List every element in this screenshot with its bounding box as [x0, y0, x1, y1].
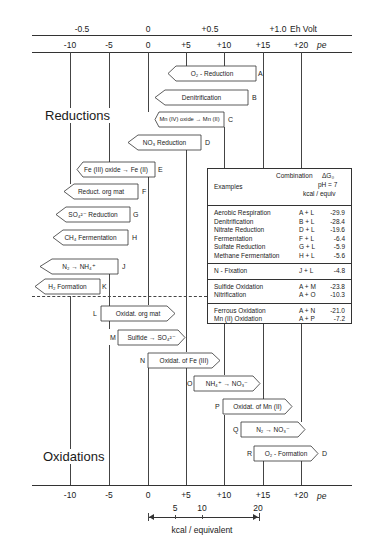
- reduction-box-j: N₂ → NH₄⁺: [40, 259, 118, 274]
- oxidation-letter-r: R: [247, 446, 252, 461]
- table-row: Sulfide OxidationA + M-23.8: [214, 283, 345, 292]
- table-row: DenitrificationB + L-28.4: [214, 218, 345, 227]
- reduction-box-b: Denitrification: [155, 90, 248, 105]
- oxidation-letter-o: O: [187, 376, 192, 391]
- oxidation-box-o: NH₄⁺ → NO₃⁻: [194, 376, 260, 391]
- connector-line: [301, 322, 302, 422]
- table-group-sulfide-nitrification: Sulfide OxidationA + M-23.8 Nitrificatio…: [208, 280, 351, 304]
- connector-line: [224, 52, 225, 66]
- reduction-letter-g: G: [133, 207, 138, 222]
- oxidation-letter-q: Q: [233, 422, 238, 437]
- connector-line: [224, 415, 225, 485]
- table-group-metal-oxidation: Ferrous OxidationA + N-21.0 Mn (II) Oxid…: [208, 304, 351, 327]
- connector-line: [301, 461, 302, 485]
- table-row: Ferrous OxidationA + N-21.0: [214, 307, 345, 316]
- oxidation-box-q: N₂ → NO₃⁻: [241, 422, 305, 437]
- reduction-box-g: SO₄²⁻ Reduction: [56, 207, 130, 222]
- combinations-table: Examples Combination ΔG₀ pH = 7 kcal / e…: [207, 168, 352, 324]
- pe-unit-label: pe: [317, 40, 326, 50]
- eh-tick: 0: [146, 24, 151, 34]
- connector-line: [263, 322, 264, 399]
- oxidation-box-p: Oxidat. of Mn (II): [223, 399, 292, 414]
- oxidation-box-l: Oxidat. org mat: [101, 306, 175, 321]
- reduction-box-d: NO₃ Reduction: [128, 135, 201, 150]
- table-row: FermentationF + L-6.4: [214, 235, 345, 244]
- reduction-letter-j: J: [122, 259, 126, 274]
- table-row: N - FixationJ + L-4.8: [214, 267, 345, 276]
- connector-line: [148, 368, 149, 485]
- pe-tick: -5: [105, 490, 113, 500]
- oxidation-box-r: O₂ - Formation: [254, 446, 318, 461]
- reduction-box-k: H₂ Formation: [35, 279, 100, 294]
- connector-line: [224, 322, 225, 375]
- reduction-letter-e: E: [158, 162, 163, 177]
- oxidation-letter-m: M: [110, 330, 116, 345]
- reduction-letter-h: H: [132, 230, 137, 245]
- reduction-letter-d: D: [205, 135, 210, 150]
- connector-line: [186, 150, 187, 352]
- scale-arrow-right-icon: [253, 514, 258, 520]
- table-row: Aerobic RespirationA + L-29.9: [214, 209, 345, 218]
- pe-tick: -10: [64, 490, 76, 500]
- pe-tick: +20: [294, 40, 308, 50]
- table-row: Methane FermentationH + L-5.6: [214, 252, 345, 261]
- connector-line: [224, 127, 225, 168]
- scale-tick-label: 10: [197, 503, 206, 513]
- connector-line: [301, 52, 302, 168]
- reduction-letter-a: A: [258, 66, 263, 81]
- reduction-letter-f: F: [142, 184, 146, 199]
- scale-tick-label: 5: [173, 503, 178, 513]
- pe-unit-label: pe: [317, 491, 326, 501]
- scale-tick-label: 20: [253, 503, 262, 513]
- pe-tick: -5: [105, 40, 113, 50]
- reduction-box-c: Mn (IV) oxide → Mn (II): [155, 112, 224, 127]
- eh-tick: +0.5: [202, 24, 219, 34]
- oxidation-suffix-d: D: [322, 446, 327, 461]
- connector-line: [148, 52, 149, 112]
- reduction-letter-b: B: [252, 90, 257, 105]
- eh-tick: -0.5: [75, 24, 90, 34]
- pe-tick: +20: [294, 490, 308, 500]
- connector-line: [148, 177, 149, 305]
- oxidation-box-m: Sulfide → SO₄²⁻: [118, 330, 185, 345]
- table-row: Nitrate ReductionD + L-19.6: [214, 226, 345, 235]
- reduction-box-f: Reduct. org mat: [64, 184, 138, 199]
- table-row: NitrificationA + O-10.3: [214, 291, 345, 300]
- oxidation-letter-l: L: [93, 306, 97, 321]
- dg-header: ΔG₀: [322, 172, 334, 179]
- pe-tick: -10: [64, 40, 76, 50]
- examples-header: Examples: [214, 183, 243, 190]
- pe-tick: 0: [146, 490, 151, 500]
- reductions-label: Reductions: [45, 108, 110, 123]
- pe-tick: 0: [146, 40, 151, 50]
- reduction-box-e: Fe (III) oxide → Fe (II): [77, 162, 155, 177]
- pe-tick: +10: [217, 490, 231, 500]
- connector-line: [263, 52, 264, 168]
- pe-tick: +15: [256, 490, 270, 500]
- oxidation-letter-p: P: [215, 399, 220, 414]
- oxidation-letter-n: N: [140, 353, 145, 368]
- oxidations-label: Oxidations: [43, 449, 104, 464]
- connector-line: [109, 52, 110, 162]
- reduction-box-a: O₂ - Reduction: [168, 66, 256, 81]
- pe-bottom-axis-line: [32, 485, 352, 486]
- reduction-oxidation-divider: [32, 296, 207, 297]
- kcal-scale-bar: [148, 517, 259, 518]
- table-group-fixation: N - FixationJ + L-4.8: [208, 264, 351, 280]
- table-group-respiration: Aerobic RespirationA + L-29.9 Denitrific…: [208, 206, 351, 264]
- eh-tick: +1.0: [270, 24, 287, 34]
- reduction-letter-c: C: [228, 112, 233, 127]
- table-row: Mn (II) OxidationA + P-7.2: [214, 315, 345, 324]
- table-row: Sulfate ReductionG + L-5.9: [214, 243, 345, 252]
- connector-line: [186, 52, 187, 66]
- pe-top-axis-line: [32, 52, 352, 53]
- pe-tick: +10: [217, 40, 231, 50]
- pe-tick: +5: [181, 490, 191, 500]
- scale-tick: [175, 515, 176, 519]
- eh-axis-line: [32, 35, 352, 36]
- scale-arrow-left-icon: [149, 514, 154, 520]
- reduction-letter-k: K: [102, 279, 107, 294]
- scale-label: kcal / equivalent: [172, 525, 233, 535]
- combination-header: Combination: [276, 172, 313, 179]
- scale-end-cap: [259, 513, 260, 521]
